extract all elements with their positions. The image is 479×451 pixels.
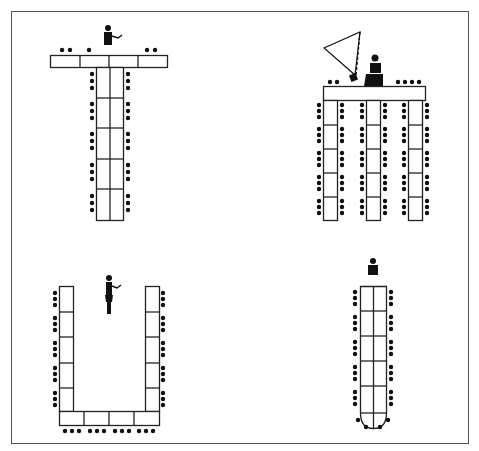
t-shape-layout xyxy=(51,25,168,221)
diagram-frame xyxy=(12,12,469,444)
comb-head-table xyxy=(324,87,426,101)
seated-chairperson-icon xyxy=(368,258,378,275)
comb-layout xyxy=(317,32,429,221)
projector-icon xyxy=(324,32,360,82)
seated-presenter-icon xyxy=(364,55,383,87)
seating-layouts-diagram xyxy=(0,0,479,451)
u-right-table xyxy=(146,287,160,412)
boardroom-layout xyxy=(353,258,393,429)
u-left-table xyxy=(60,287,74,412)
u-shape-layout xyxy=(53,275,165,433)
head-table-chairs xyxy=(60,48,157,52)
standing-presenter-icon xyxy=(104,25,122,45)
standing-presenter-icon xyxy=(105,275,121,314)
comb-leg-tables xyxy=(324,101,423,221)
